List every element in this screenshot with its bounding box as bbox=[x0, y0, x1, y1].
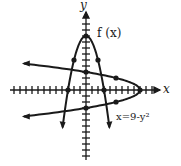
data-point bbox=[113, 75, 118, 80]
f-of-x-label: f (x) bbox=[97, 26, 121, 40]
x-axis-arrow-icon bbox=[154, 87, 160, 93]
arrow-icon bbox=[106, 121, 112, 129]
graph-canvas bbox=[0, 0, 181, 166]
arrow-icon bbox=[22, 61, 30, 67]
data-point bbox=[83, 105, 88, 110]
sideways-parabola-label: x=9-y² bbox=[116, 111, 149, 122]
data-point bbox=[101, 87, 106, 92]
y-axis-arrow-icon bbox=[83, 12, 89, 18]
data-point bbox=[113, 99, 118, 104]
data-point bbox=[137, 87, 142, 92]
marked-points bbox=[65, 33, 142, 110]
data-point bbox=[65, 87, 70, 92]
y-axis-label: y bbox=[80, 0, 87, 12]
data-point bbox=[71, 57, 76, 62]
data-point bbox=[95, 57, 100, 62]
x-axis-label: x bbox=[163, 82, 170, 96]
arrow-icon bbox=[60, 121, 66, 129]
arrow-icon bbox=[22, 113, 30, 119]
data-point bbox=[83, 69, 88, 74]
data-point bbox=[83, 33, 88, 38]
